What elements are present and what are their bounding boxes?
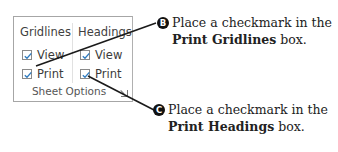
callout-badge-c: C xyxy=(153,104,165,116)
callout-c-line1: Place a checkmark in the xyxy=(168,101,328,118)
callout-b-rest: box. xyxy=(276,32,307,47)
leader-line-c xyxy=(88,76,154,110)
leader-line-b xyxy=(36,23,156,66)
callout-b-line1: Place a checkmark in the xyxy=(172,14,332,31)
callout-c: Place a checkmark in the Print Headings … xyxy=(168,101,328,135)
callout-b: Place a checkmark in the Print Gridlines… xyxy=(172,14,332,48)
callout-badge-b: B xyxy=(157,17,169,29)
callout-c-bold: Print Headings xyxy=(168,119,274,134)
callout-b-bold: Print Gridlines xyxy=(172,32,276,47)
callout-c-rest: box. xyxy=(274,119,305,134)
